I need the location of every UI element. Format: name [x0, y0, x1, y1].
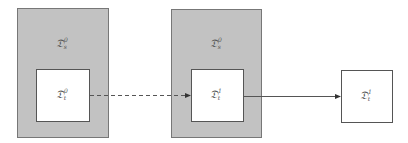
- dashed-arrow: [90, 93, 191, 98]
- arrows-layer: [0, 0, 408, 143]
- solid-arrow: [244, 94, 341, 99]
